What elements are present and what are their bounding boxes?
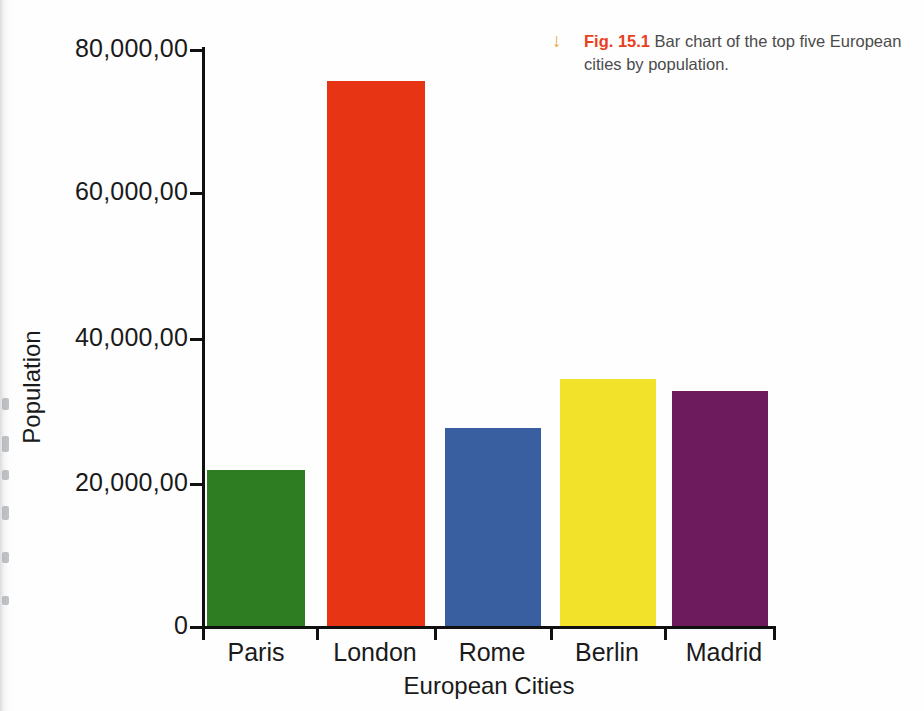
y-tick-label-8000000: 80,000,00 <box>75 34 188 63</box>
y-tick-6000000 <box>190 192 203 195</box>
x-axis-title: European Cities <box>202 672 776 700</box>
y-tick-label-2000000: 20,000,00 <box>75 468 188 497</box>
bar-fill-madrid <box>672 391 768 626</box>
y-tick-2000000 <box>190 483 203 486</box>
bar-fill-rome <box>445 428 541 626</box>
y-tick-8000000 <box>190 49 203 52</box>
bar-madrid[interactable] <box>672 391 768 626</box>
x-axis-line <box>202 626 776 629</box>
y-axis-title: Population <box>18 287 46 487</box>
bar-chart: 0 20,000,00 40,000,00 60,000,00 80,000,0… <box>0 0 924 711</box>
x-tick-label-london: London <box>316 638 434 667</box>
bar-fill-london <box>327 81 425 626</box>
x-tick-label-paris: Paris <box>196 638 316 667</box>
figure-page: y ↓ Fig. 15.1 Bar chart of the top five … <box>0 0 924 711</box>
y-tick-label-4000000: 40,000,00 <box>75 323 188 352</box>
bar-rome[interactable] <box>445 428 541 626</box>
bar-london[interactable] <box>327 81 425 626</box>
y-tick-4000000 <box>190 338 203 341</box>
y-tick-label-6000000: 60,000,00 <box>75 177 188 206</box>
y-tick-label-0: 0 <box>174 611 188 640</box>
x-tick-label-madrid: Madrid <box>664 638 784 667</box>
bar-fill-paris <box>207 470 305 626</box>
x-tick-label-rome: Rome <box>434 638 550 667</box>
bar-berlin[interactable] <box>560 379 656 626</box>
x-tick-label-berlin: Berlin <box>550 638 664 667</box>
bar-paris[interactable] <box>207 470 305 626</box>
bar-fill-berlin <box>560 379 656 626</box>
